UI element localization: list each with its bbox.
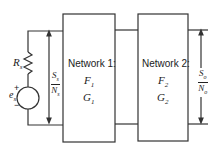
voltage-source-icon xyxy=(17,87,39,109)
output-snr: So No xyxy=(198,68,208,97)
two-stage-network-diagram: Rs + es − Ss Ns Network 1: F1 G1 Network… xyxy=(0,0,220,149)
resistor-icon xyxy=(24,52,32,74)
arrow-up-icon xyxy=(47,31,51,36)
input-snr: Ss Ns xyxy=(51,70,60,99)
network1-title: Network 1: xyxy=(68,58,116,69)
network1-f: F1 xyxy=(84,74,94,89)
network2-g: G2 xyxy=(157,91,168,106)
network2-title: Network 2: xyxy=(142,58,190,69)
top-wire xyxy=(28,31,63,52)
resistor-label: Rs xyxy=(13,56,22,71)
arrow-down-icon xyxy=(47,118,51,123)
bottom-wire xyxy=(28,109,63,125)
network2-f: F2 xyxy=(158,74,168,89)
minus-sign: − xyxy=(14,100,19,110)
circuit-lines xyxy=(0,0,220,149)
network1-g: G1 xyxy=(83,91,94,106)
